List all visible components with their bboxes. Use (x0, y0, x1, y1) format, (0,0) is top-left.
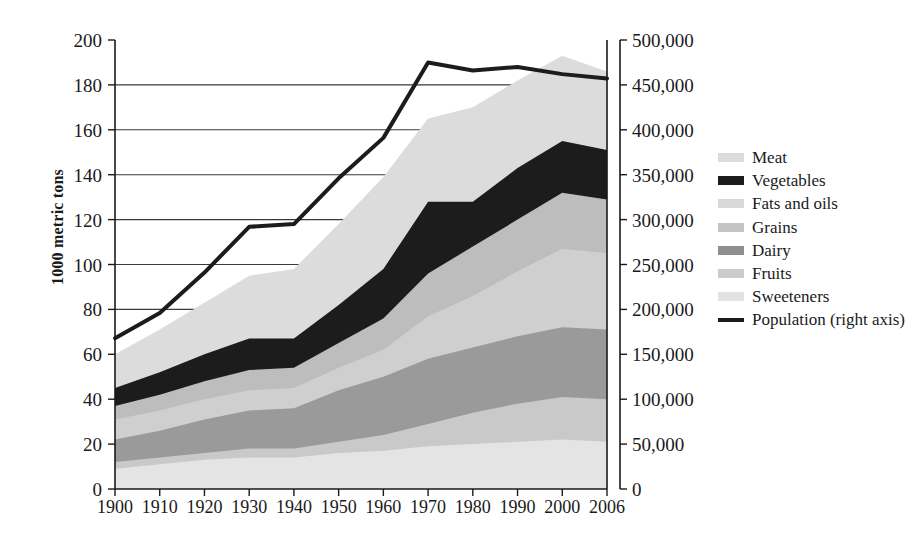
legend-label: Sweeteners (752, 288, 829, 305)
legend-item-vegetables[interactable]: Vegetables (718, 169, 918, 192)
legend-label: Grains (752, 219, 797, 236)
legend-label: Fruits (752, 265, 792, 282)
legend-item-meat[interactable]: Meat (718, 146, 918, 169)
legend-label: Dairy (752, 242, 791, 259)
legend-label: Meat (752, 149, 787, 166)
stacked-areas (115, 56, 607, 489)
legend-item-fats-and-oils[interactable]: Fats and oils (718, 192, 918, 215)
legend-label: Population (right axis) (752, 311, 905, 328)
legend-swatch-icon (718, 199, 744, 208)
legend-swatch-icon (718, 246, 744, 255)
legend-item-dairy[interactable]: Dairy (718, 239, 918, 262)
chart-container: 1000 metric tons 02040608010012014016018… (0, 0, 923, 540)
chart-legend: MeatVegetablesFats and oilsGrainsDairyFr… (718, 146, 918, 332)
legend-swatch-icon (718, 318, 744, 322)
legend-item-fruits[interactable]: Fruits (718, 262, 918, 285)
legend-label: Vegetables (752, 172, 826, 189)
legend-item-sweeteners[interactable]: Sweeteners (718, 285, 918, 308)
legend-swatch-icon (718, 223, 744, 232)
legend-item-population-right-axis[interactable]: Population (right axis) (718, 308, 918, 331)
legend-item-grains[interactable]: Grains (718, 216, 918, 239)
legend-swatch-icon (718, 292, 744, 301)
legend-swatch-icon (718, 176, 744, 185)
legend-swatch-icon (718, 269, 744, 278)
legend-label: Fats and oils (752, 195, 838, 212)
legend-swatch-icon (718, 153, 744, 162)
